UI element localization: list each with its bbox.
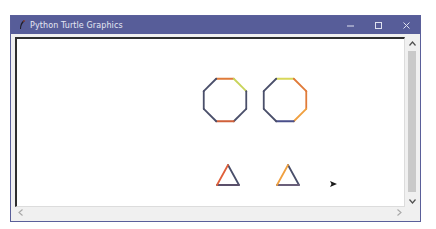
maximize-button[interactable] xyxy=(364,16,392,34)
turtle-canvas[interactable] xyxy=(15,37,405,207)
scroll-right-button[interactable] xyxy=(394,207,405,218)
chevron-left-icon xyxy=(18,209,23,216)
octagon-edge xyxy=(294,79,306,91)
octagon-edge xyxy=(204,109,216,121)
octagon-edge xyxy=(234,109,246,121)
scroll-up-button[interactable] xyxy=(406,37,418,49)
triangle-edge xyxy=(217,165,228,185)
minimize-button[interactable] xyxy=(336,16,364,34)
chevron-down-icon xyxy=(409,199,416,204)
triangle-edge xyxy=(277,165,288,185)
window-title: Python Turtle Graphics xyxy=(30,21,123,30)
drawing-surface xyxy=(17,39,405,207)
octagon-edge xyxy=(294,109,306,121)
octagon-edge xyxy=(264,109,276,121)
python-feather-icon xyxy=(17,19,27,31)
title-bar[interactable]: Python Turtle Graphics xyxy=(11,16,420,34)
vertical-scrollbar[interactable] xyxy=(406,37,418,207)
client-area xyxy=(11,34,420,221)
scroll-left-button[interactable] xyxy=(15,207,26,218)
close-button[interactable] xyxy=(392,16,420,34)
chevron-up-icon xyxy=(409,41,416,46)
vertical-scroll-thumb[interactable] xyxy=(408,51,416,192)
turtle-window: Python Turtle Graphics xyxy=(10,15,421,222)
chevron-right-icon xyxy=(397,209,402,216)
triangle-edge xyxy=(228,165,239,185)
octagon-edge xyxy=(204,79,216,91)
horizontal-scrollbar[interactable] xyxy=(15,207,405,218)
triangle-edge xyxy=(288,165,299,185)
minimize-icon xyxy=(346,21,355,30)
maximize-icon xyxy=(374,21,383,30)
octagon-edge xyxy=(264,79,276,91)
scroll-down-button[interactable] xyxy=(406,195,418,207)
octagon-edge xyxy=(234,79,246,91)
close-icon xyxy=(402,21,411,30)
window-controls xyxy=(336,16,420,34)
turtle-cursor-icon xyxy=(330,181,337,187)
